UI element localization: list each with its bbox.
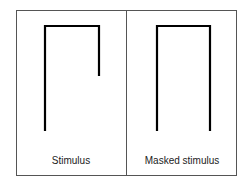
masked-stimulus-shape: [157, 26, 210, 131]
masked-stimulus-label: Masked stimulus: [127, 155, 237, 166]
stimulus-label: Stimulus: [16, 155, 126, 166]
stimulus-shape: [45, 26, 99, 131]
